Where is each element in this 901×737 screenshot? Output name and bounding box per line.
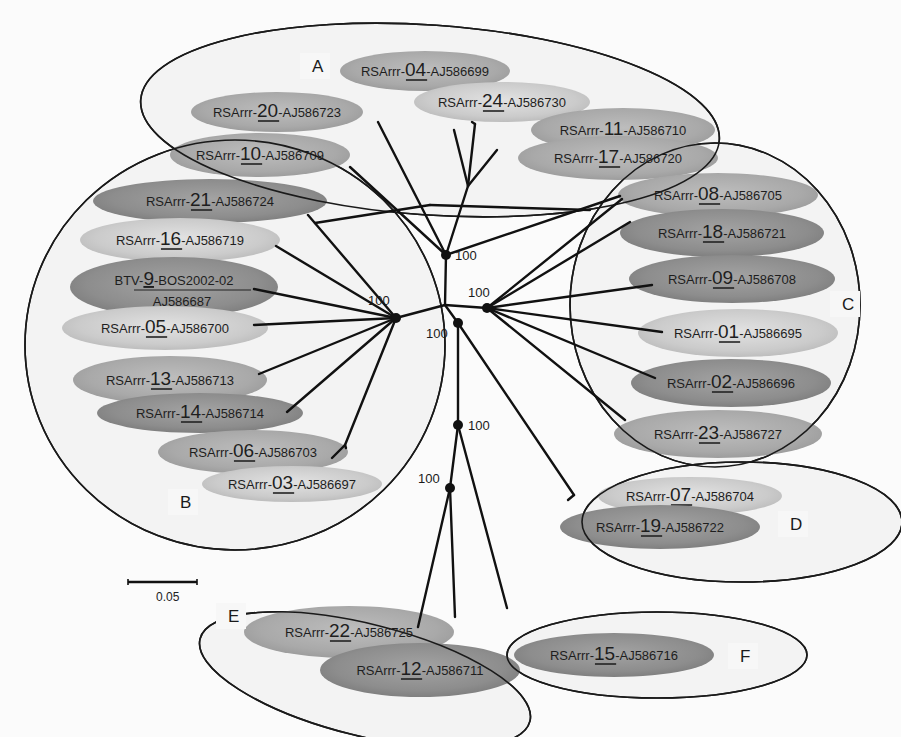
taxon-prefix: RSArrr- [106,373,150,388]
taxon-number: 06 [233,440,254,461]
taxon-number: 21 [190,189,211,210]
taxon-number: 13 [150,368,171,389]
tree-node-dot [441,250,451,260]
bootstrap-value: 100 [426,326,448,341]
tree-branch [450,425,458,488]
tree-branch [345,445,346,448]
taxon-accession: -AJ586727 [719,427,782,442]
taxon-prefix: RSArrr- [667,376,711,391]
bootstrap-value: 100 [368,293,390,308]
taxon-number: 03 [272,472,293,493]
taxon-number: 01 [718,321,739,342]
taxon-rsarrr19: RSArrr-19-AJ586722 [560,505,760,549]
taxon-accession: -AJ586714 [201,406,264,421]
taxon-prefix: RSArrr- [285,625,329,640]
taxon-rsarrr03: RSArrr-03-AJ586697 [202,466,382,502]
taxon-accession: -AJ586711 [422,663,484,678]
taxon-rsarrr18: RSArrr-18-AJ586721 [620,209,824,257]
tree-node-dot [482,303,492,313]
taxon-number: 9 [143,268,154,289]
taxon-number: 12 [400,658,421,679]
taxon-number: 16 [160,228,181,249]
taxon-accession: -AJ586704 [691,489,754,504]
taxon-rsarrr16: RSArrr-16-AJ586719 [80,218,280,262]
taxon-number: 19 [640,515,661,536]
phylogenetic-tree-figure: RSArrr-04-AJ586699RSArrr-20-AJ586723RSAr… [0,0,901,737]
taxon-accession: -AJ586699 [426,64,489,79]
taxon-rsarrr05: RSArrr-05-AJ586700 [62,306,268,350]
bootstrap-value: 100 [468,418,490,433]
taxon-accession: -AJ586713 [171,373,234,388]
taxon-number: 20 [257,100,278,121]
taxon-prefix: RSArrr- [626,489,670,504]
taxon-accession: -AJ586708 [733,272,796,287]
taxon-rsarrr23: RSArrr-23-AJ586727 [614,410,822,458]
tree-branch [445,305,487,308]
tree-branch [450,488,455,617]
taxon-rsarrr15: RSArrr-15-AJ586716 [514,633,714,677]
tree-node-dot [453,318,463,328]
taxon-prefix: RSArrr- [550,648,594,663]
clade-letter-e: E [228,607,239,626]
taxon-prefix: RSArrr- [560,123,604,138]
taxon-prefix: RSArrr- [668,272,712,287]
tree-branch [472,122,475,124]
taxon-rsarrr21: RSArrr-21-AJ586724 [93,179,327,223]
taxon-accession: -AJ586721 [723,226,786,241]
tree-branch [458,323,574,495]
taxon-number: 23 [698,422,719,443]
taxon-accession: -AJ586716 [615,648,678,663]
tree-node-dot [391,313,401,323]
clade-letter-d: D [790,515,802,534]
taxon-prefix: RSArrr- [596,520,640,535]
taxon-accession: -AJ586722 [661,520,724,535]
taxon-rsarrr17: RSArrr-17-AJ586720 [518,136,718,180]
taxon-prefix: RSArrr- [136,406,180,421]
taxon-number: 22 [329,620,350,641]
tree-branch [445,255,446,305]
taxon-prefix: RSArrr- [654,427,698,442]
taxon-rsarrr02: RSArrr-02-AJ586696 [631,359,831,407]
bootstrap-value: 100 [468,285,490,300]
clade-letter-a: A [312,57,324,76]
taxon-accession: -BOS2002-02 [154,273,234,288]
taxon-prefix: RSArrr- [361,64,405,79]
taxon-accession: -AJ586710 [623,123,686,138]
taxon-accession: -AJ586723 [278,105,341,120]
taxon-number: 24 [482,90,504,111]
taxon-number: 08 [698,183,719,204]
taxon-number: 09 [712,267,733,288]
tree-branch [418,488,450,627]
taxon-number: 18 [702,221,723,242]
taxon-accession: -AJ586703 [254,445,317,460]
taxon-rsarrr20: RSArrr-20-AJ586723 [191,92,363,132]
taxon-accession: -AJ586697 [293,477,356,492]
taxon-accession: -AJ586724 [211,194,274,209]
scale-bar: 0.05 [128,579,197,604]
taxon-accession: -AJ586719 [181,233,244,248]
taxon-number: 11 [604,118,624,139]
tree-branch [458,425,507,608]
taxon-prefix: RSArrr- [116,233,160,248]
taxon-prefix: BTV- [115,273,144,288]
taxon-accession: -AJ586696 [732,376,795,391]
taxon-prefix: RSArrr- [213,105,257,120]
clade-letter-f: F [740,647,750,666]
tree-node-dot [445,483,455,493]
taxon-number: 10 [240,143,261,164]
clade-letter-b: B [180,493,191,512]
taxon-number: 04 [405,59,427,80]
taxon-prefix: RSArrr- [554,151,598,166]
taxon-prefix: RSArrr- [654,188,698,203]
taxon-prefix: RSArrr- [356,663,400,678]
taxon-accession: -AJ586700 [166,321,229,336]
taxon-prefix: RSArrr- [146,194,190,209]
taxon-prefix: RSArrr- [438,95,482,110]
taxon-number: 14 [180,401,202,422]
tree-branch [568,495,574,500]
taxon-accession: -AJ586730 [503,95,566,110]
taxon-rsarrr14: RSArrr-14-AJ586714 [97,393,303,433]
taxon-prefix: RSArrr- [196,148,240,163]
scale-bar-label: 0.05 [156,590,180,604]
taxon-accession: -AJ586695 [739,326,802,341]
